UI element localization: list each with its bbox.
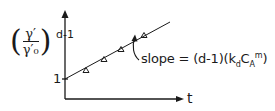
exponent: d-1 <box>56 28 74 41</box>
c-subscript: A <box>250 60 255 69</box>
annotation-arrow <box>132 35 140 61</box>
slope-prefix: slope = (d-1)( <box>141 51 228 66</box>
x-axis-label: t <box>187 90 193 106</box>
open-paren: ( <box>10 23 22 58</box>
y-axis <box>62 10 69 99</box>
slope-annotation: slope = (d-1)(kdCAm) <box>141 51 267 69</box>
x-axis <box>65 96 184 102</box>
close-paren: ) <box>40 23 52 58</box>
y-axis-label: (γ′γ′₀) d-1 <box>10 26 51 56</box>
slope-suffix: ) <box>262 51 267 66</box>
intercept-label: 1 <box>53 71 61 86</box>
c-symbol: C <box>241 51 250 66</box>
data-points <box>83 33 147 73</box>
ratio-fraction: γ′γ′₀ <box>23 27 39 56</box>
numerator: γ′ <box>23 27 39 42</box>
denominator: γ′₀ <box>23 42 39 56</box>
k-symbol: k <box>228 51 235 66</box>
